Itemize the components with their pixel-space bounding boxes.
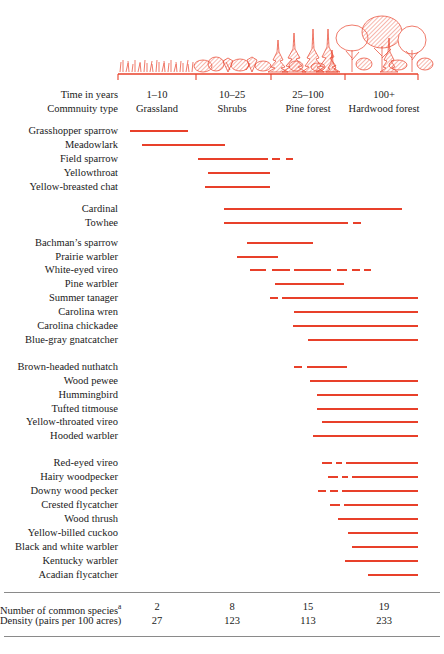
species-row: Bachman’s sparrow (0, 236, 444, 250)
species-label: Summer tanager (0, 291, 118, 305)
species-row: Yellow-throated vireo (0, 415, 444, 429)
species-range-segment (198, 158, 268, 160)
footer-density-label: Density (pairs per 100 acres) (0, 614, 118, 628)
species-row: Yellow-breasted chat (0, 180, 444, 194)
header-time-row: Time in years 1–10 10–25 25–100 100+ (0, 88, 444, 101)
species-label: Cardinal (0, 202, 118, 216)
species-label: Wood thrush (0, 512, 118, 526)
species-range-segment (336, 462, 342, 464)
species-range-segment (310, 380, 418, 382)
species-range-track (118, 498, 444, 512)
species-label: Acadian flycatcher (0, 568, 118, 582)
footer-density-hardwood: 233 (344, 614, 424, 628)
species-label: Carolina wren (0, 305, 118, 319)
header-time-grassland: 1–10 (117, 88, 197, 101)
species-row: Hairy woodpecker (0, 470, 444, 484)
header-time-label: Time in years (0, 88, 118, 101)
species-range-segment (294, 311, 418, 313)
species-range-track (118, 512, 444, 526)
species-label: Kentucky warbler (0, 554, 118, 568)
species-row: Cardinal (0, 202, 444, 216)
species-range-segment (313, 435, 418, 437)
species-range-segment (317, 394, 418, 396)
species-row: Brown-headed nuthatch (0, 360, 444, 374)
species-range-segment (237, 256, 278, 258)
species-label: Hairy woodpecker (0, 470, 118, 484)
species-range-segment (322, 421, 418, 423)
header-community-row: Commnuity type Grassland Shrubs Pine for… (0, 102, 444, 115)
header-community-label: Commnuity type (0, 102, 118, 115)
species-label: Bachman’s sparrow (0, 236, 118, 250)
species-range-segment (346, 462, 418, 464)
species-range-track (118, 124, 444, 138)
species-range-track (118, 470, 444, 484)
species-range-segment (247, 242, 313, 244)
header-community-hardwood: Hardwood forest (334, 102, 434, 115)
species-row: White-eyed vireo (0, 263, 444, 277)
species-range-track (118, 305, 444, 319)
species-label: Meadowlark (0, 138, 118, 152)
species-range-track (118, 402, 444, 416)
species-label: Yellow-throated vireo (0, 415, 118, 429)
species-range-segment (282, 297, 418, 299)
species-range-segment (330, 490, 338, 492)
footer-species-grassland: 2 (117, 600, 197, 614)
species-range-segment (307, 366, 347, 368)
species-label: Field sparrow (0, 152, 118, 166)
species-range-track (118, 263, 444, 277)
footer-species-shrubs: 8 (192, 600, 272, 614)
species-range-track (118, 236, 444, 250)
species-range-track (118, 388, 444, 402)
species-range-segment (318, 490, 326, 492)
species-label: Yellowthroat (0, 166, 118, 180)
species-range-segment (342, 476, 348, 478)
species-range-segment (286, 158, 293, 160)
species-range-track (118, 277, 444, 291)
species-row: Acadian flycatcher (0, 568, 444, 582)
species-range-segment (272, 269, 290, 271)
footer-species-hardwood: 19 (344, 600, 424, 614)
species-range-track (118, 526, 444, 540)
footer-density-row: Density (pairs per 100 acres) 27 123 113… (0, 614, 444, 628)
species-row: Prairie warbler (0, 250, 444, 264)
species-row: Field sparrow (0, 152, 444, 166)
species-row: Grasshopper sparrow (0, 124, 444, 138)
species-label: Grasshopper sparrow (0, 124, 118, 138)
species-label: Yellow-breasted chat (0, 180, 118, 194)
species-range-track (118, 202, 444, 216)
species-row: Meadowlark (0, 138, 444, 152)
species-range-segment (275, 283, 344, 285)
species-range-track (118, 319, 444, 333)
species-range-track (118, 456, 444, 470)
footer-density-pine: 113 (268, 614, 348, 628)
species-range-segment (142, 144, 225, 146)
species-row: Yellowthroat (0, 166, 444, 180)
species-range-segment (308, 339, 418, 341)
species-range-track (118, 166, 444, 180)
species-range-track (118, 180, 444, 194)
species-row: Carolina wren (0, 305, 444, 319)
header-time-pine: 25–100 (268, 88, 348, 101)
species-row: Wood pewee (0, 374, 444, 388)
species-range-segment (250, 269, 266, 271)
species-range-segment (270, 297, 278, 299)
species-label: Crested flycatcher (0, 498, 118, 512)
species-range-segment (205, 186, 270, 188)
species-range-segment (224, 208, 402, 210)
header-community-grassland: Grassland (117, 102, 197, 115)
header-time-shrubs: 10–25 (192, 88, 272, 101)
species-row: Hooded warbler (0, 429, 444, 443)
species-row: Yellow-billed cuckoo (0, 526, 444, 540)
species-range-segment (352, 269, 360, 271)
species-range-segment (272, 158, 280, 160)
footer-density-shrubs: 123 (192, 614, 272, 628)
habitat-illustration (0, 0, 444, 80)
species-range-segment (130, 130, 188, 132)
species-row: Downy wood pecker (0, 484, 444, 498)
header-time-hardwood: 100+ (344, 88, 424, 101)
species-label: Red-eyed vireo (0, 456, 118, 470)
succession-chart: Time in years 1–10 10–25 25–100 100+ Com… (0, 0, 444, 654)
species-range-track (118, 291, 444, 305)
species-row: Blue-gray gnatcatcher (0, 333, 444, 347)
species-range-segment (344, 504, 418, 506)
